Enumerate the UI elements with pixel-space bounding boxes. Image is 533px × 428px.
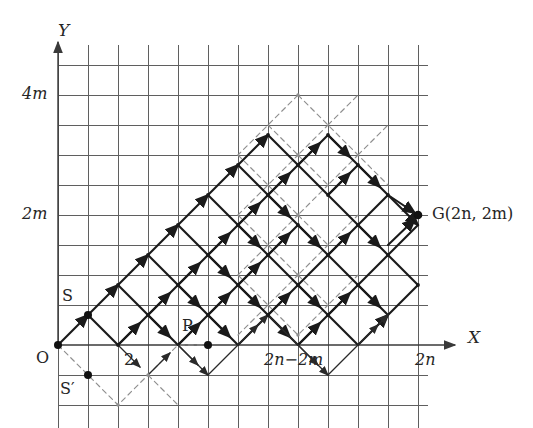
point-label-P: P [182, 318, 193, 334]
point-label-S: S [62, 288, 73, 304]
x-axis-label: X [468, 329, 480, 346]
y-tick-2m: 2m [22, 206, 47, 222]
y-axis-label: Y [58, 22, 69, 39]
dashed-reflected-paths [58, 95, 388, 405]
x-tick-2n-2m: 2n−2m [264, 352, 323, 368]
lattice-path-figure: Y X O 2m 4m 2 2n−2m 2n S S′ P G(2n, 2m) [0, 0, 533, 428]
x-tick-2n: 2n [415, 352, 435, 368]
point-S-prime [84, 371, 92, 379]
point-G [414, 211, 423, 220]
origin-label: O [36, 350, 49, 366]
point-S [84, 311, 92, 319]
point-label-G: G(2n, 2m) [432, 206, 513, 222]
point-P [204, 341, 212, 349]
path-direction-arrows [118, 135, 380, 345]
coordinate-grid [58, 45, 428, 428]
y-tick-4m: 4m [22, 86, 47, 102]
point-label-S-prime: S′ [60, 381, 75, 397]
x-tick-2: 2 [124, 352, 134, 368]
point-O [54, 341, 62, 349]
